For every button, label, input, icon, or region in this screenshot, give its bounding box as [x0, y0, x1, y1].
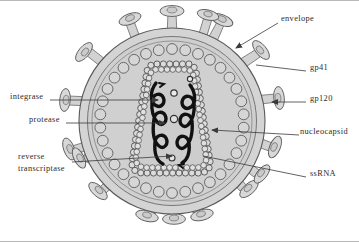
- matrix-bead: [215, 169, 226, 180]
- label-protease: protease: [29, 114, 60, 125]
- matrix-bead: [95, 122, 106, 133]
- matrix-bead: [95, 109, 106, 120]
- nucleocapsid-bead-inner: [164, 67, 170, 73]
- matrix-bead: [236, 135, 247, 146]
- label-reverse-transcriptase-line1: reverse: [18, 151, 45, 162]
- nucleocapsid-bead-inner: [141, 104, 147, 110]
- matrix-bead: [231, 148, 242, 159]
- nucleocapsid-bead-inner: [146, 75, 152, 81]
- nucleocapsid-bead-inner: [144, 87, 150, 93]
- matrix-bead: [118, 169, 129, 180]
- matrix-bead: [180, 186, 191, 197]
- label-gp120: gp120: [310, 93, 333, 104]
- nucleocapsid-bead-inner: [184, 165, 190, 171]
- matrix-bead: [238, 109, 249, 120]
- label-integrase: integrase: [10, 91, 43, 102]
- label-ssrna: ssRNA: [310, 168, 336, 179]
- matrix-bead: [141, 48, 152, 59]
- nucleocapsid-bead-inner: [144, 165, 150, 171]
- matrix-bead: [102, 148, 113, 159]
- nucleocapsid-bead-inner: [148, 70, 154, 76]
- nucleocapsid-bead-inner: [142, 98, 148, 104]
- nucleocapsid-bead-inner: [161, 165, 167, 171]
- nucleocapsid-bead-inner: [173, 165, 179, 171]
- nucleocapsid-bead: [173, 61, 179, 67]
- nucleocapsid-bead: [150, 170, 156, 176]
- nucleocapsid-bead: [179, 61, 185, 67]
- matrix-bead: [153, 45, 164, 56]
- nucleocapsid-bead-inner: [138, 126, 144, 132]
- nucleocapsid-bead-inner: [133, 155, 139, 161]
- nucleocapsid-bead-inner: [143, 92, 149, 98]
- enzyme-protease-dot: [170, 115, 177, 122]
- nucleocapsid-bead: [132, 167, 138, 173]
- nucleocapsid-bead: [170, 170, 176, 176]
- matrix-bead: [167, 188, 178, 199]
- nucleocapsid-bead: [182, 170, 188, 176]
- nucleocapsid-bead: [154, 61, 160, 67]
- nucleocapsid-bead-inner: [167, 165, 173, 171]
- nucleocapsid-bead: [167, 61, 173, 67]
- nucleocapsid-bead-inner: [201, 140, 207, 146]
- matrix-bead: [141, 183, 152, 194]
- matrix-bead: [193, 183, 204, 194]
- nucleocapsid-bead: [186, 61, 192, 67]
- nucleocapsid-bead-inner: [202, 146, 208, 152]
- matrix-bead: [102, 84, 113, 95]
- label-nucleocapsid: nucleocapsid: [300, 126, 348, 137]
- nucleocapsid-bead-inner: [158, 67, 164, 73]
- enzyme-reverse-transcriptase-dot: [187, 76, 192, 81]
- nucleocapsid-bead: [189, 170, 195, 176]
- matrix-bead: [215, 62, 226, 73]
- matrix-bead: [97, 135, 108, 146]
- figure-frame: envelope gp41 gp120 nucleocapsid ssRNA i…: [0, 0, 359, 242]
- matrix-bead: [97, 96, 108, 107]
- matrix-bead: [205, 54, 216, 65]
- nucleocapsid-bead-inner: [170, 67, 176, 73]
- nucleocapsid-bead-inner: [203, 157, 209, 163]
- matrix-bead: [129, 54, 140, 65]
- matrix-bead: [205, 177, 216, 188]
- matrix-bead: [224, 72, 235, 83]
- nucleocapsid-bead-inner: [199, 129, 205, 135]
- nucleocapsid-bead-inner: [190, 165, 196, 171]
- nucleocapsid-bead-inner: [198, 118, 204, 124]
- leader-gp41: [256, 65, 306, 71]
- matrix-bead: [167, 44, 178, 55]
- matrix-bead: [153, 186, 164, 197]
- nucleocapsid-bead-inner: [200, 135, 206, 141]
- nucleocapsid-bead-inner: [181, 67, 187, 73]
- nucleocapsid-bead: [195, 170, 201, 176]
- nucleocapsid-bead: [160, 61, 166, 67]
- nucleocapsid-bead-inner: [145, 81, 151, 87]
- matrix-bead: [231, 84, 242, 95]
- matrix-bead: [109, 72, 120, 83]
- nucleocapsid-bead-inner: [197, 112, 203, 118]
- nucleocapsid-bead-inner: [134, 149, 140, 155]
- nucleocapsid-bead: [206, 165, 212, 171]
- matrix-bead: [118, 62, 129, 73]
- nucleocapsid-bead-inner: [138, 164, 144, 170]
- nucleocapsid-bead: [138, 170, 144, 176]
- label-envelope: envelope: [281, 13, 314, 24]
- matrix-bead: [129, 177, 140, 188]
- nucleocapsid-bead-inner: [150, 165, 156, 171]
- nucleocapsid-bead: [157, 170, 163, 176]
- nucleocapsid-bead-inner: [140, 115, 146, 121]
- nucleocapsid-bead-inner: [196, 106, 202, 112]
- nucleocapsid-bead: [144, 170, 150, 176]
- matrix-bead: [193, 48, 204, 59]
- matrix-bead: [236, 96, 247, 107]
- nucleocapsid-bead-inner: [136, 138, 142, 144]
- matrix-bead: [180, 45, 191, 56]
- nucleocapsid-bead-inner: [139, 121, 145, 127]
- nucleocapsid-bead-inner: [135, 143, 141, 149]
- nucleocapsid-bead-inner: [176, 67, 182, 73]
- nucleocapsid-bead-inner: [187, 68, 193, 74]
- label-gp41: gp41: [310, 62, 328, 73]
- matrix-bead: [109, 159, 120, 170]
- enzyme-integrase-dot: [171, 90, 177, 96]
- label-reverse-transcriptase-line2: transcriptase: [18, 163, 65, 174]
- nucleocapsid-bead-inner: [137, 132, 143, 138]
- nucleocapsid-bead-inner: [198, 123, 204, 129]
